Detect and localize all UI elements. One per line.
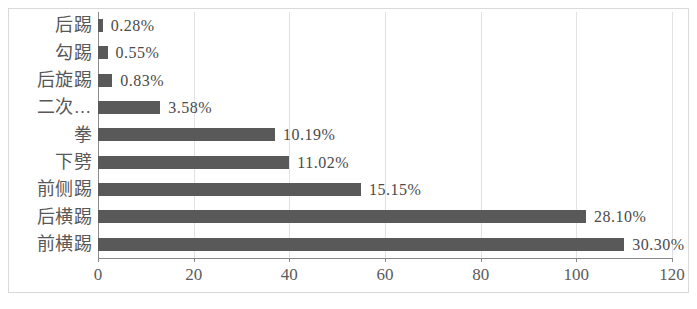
bar-value-label: 28.10% [594, 207, 646, 226]
tick-mark [289, 258, 290, 262]
bar-value-label: 30.30% [632, 235, 684, 254]
x-tick-label: 20 [185, 266, 202, 283]
category-label: 前横踢 [4, 231, 92, 258]
x-tick-label: 80 [472, 266, 489, 283]
category-label: 后横踢 [4, 204, 92, 231]
bar-row: 11.02% [98, 149, 672, 176]
category-label: 后旋踢 [4, 67, 92, 94]
bar[interactable] [98, 101, 160, 114]
bar-row: 3.58% [98, 94, 672, 121]
bar-value-label: 15.15% [369, 180, 421, 199]
bar-value-label: 10.19% [283, 125, 335, 144]
bar[interactable] [98, 183, 361, 196]
category-label: 下劈 [4, 149, 92, 176]
category-axis-labels: 后踢勾踢后旋踢二次…拳下劈前侧踢后横踢前横踢 [0, 12, 92, 258]
x-tick-label: 40 [281, 266, 298, 283]
bar-row: 30.30% [98, 231, 672, 258]
bar-row: 15.15% [98, 176, 672, 203]
x-tick-label: 60 [377, 266, 394, 283]
bar-value-label: 0.83% [120, 71, 164, 90]
bar[interactable] [98, 74, 112, 87]
bar[interactable] [98, 156, 289, 169]
bar[interactable] [98, 128, 275, 141]
tick-mark [194, 258, 195, 262]
tick-mark [672, 258, 673, 262]
category-label: 前侧踢 [4, 176, 92, 203]
bar-value-label: 0.55% [116, 43, 160, 62]
tick-mark [385, 258, 386, 262]
bar-row: 0.83% [98, 67, 672, 94]
bar-chart: 020406080100120 后踢勾踢后旋踢二次…拳下劈前侧踢后横踢前横踢 0… [0, 0, 697, 309]
bar-value-label: 11.02% [297, 153, 349, 172]
tick-mark [481, 258, 482, 262]
bar[interactable] [98, 19, 103, 32]
bar-row: 0.55% [98, 39, 672, 66]
x-tick-label: 100 [564, 266, 590, 283]
x-tick-label: 120 [659, 266, 685, 283]
bar-row: 10.19% [98, 121, 672, 148]
bar-row: 28.10% [98, 203, 672, 230]
plot-area: 0.28%0.55%0.83%3.58%10.19%11.02%15.15%28… [98, 12, 672, 258]
category-label: 勾踢 [4, 40, 92, 67]
tick-mark [576, 258, 577, 262]
bar-value-label: 3.58% [168, 98, 212, 117]
category-label: 后踢 [4, 12, 92, 39]
x-tick-label: 0 [94, 266, 103, 283]
bar[interactable] [98, 238, 624, 251]
bar-row: 0.28% [98, 12, 672, 39]
category-label: 二次… [4, 94, 92, 121]
bar-value-label: 0.28% [111, 16, 155, 35]
bar[interactable] [98, 210, 586, 223]
tick-mark [98, 258, 99, 262]
category-label: 拳 [4, 122, 92, 149]
gridline [672, 12, 673, 258]
bar[interactable] [98, 46, 108, 59]
